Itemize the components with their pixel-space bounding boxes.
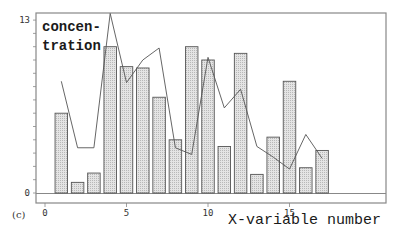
bar bbox=[104, 47, 117, 193]
bar bbox=[283, 81, 296, 193]
bar bbox=[137, 68, 150, 193]
bar bbox=[120, 67, 133, 193]
y-tick-label: 13 bbox=[19, 15, 30, 25]
bar bbox=[88, 173, 101, 193]
bar bbox=[218, 146, 231, 193]
bar bbox=[234, 53, 247, 193]
chart-area: 013051015 concen- tration X-variable num… bbox=[0, 0, 400, 237]
bar bbox=[71, 182, 84, 193]
x-axis-label: X-variable number bbox=[228, 212, 381, 229]
bar bbox=[267, 137, 280, 193]
bar bbox=[202, 60, 215, 193]
bar bbox=[300, 168, 313, 193]
y-axis-label-line-2: tration bbox=[42, 37, 122, 56]
panel-label: (c) bbox=[12, 209, 25, 220]
x-tick-label: 0 bbox=[42, 208, 47, 218]
bar bbox=[185, 47, 198, 193]
bar-series bbox=[55, 47, 328, 193]
bar bbox=[55, 113, 68, 193]
x-tick-label: 5 bbox=[124, 208, 129, 218]
x-tick-label: 10 bbox=[203, 208, 214, 218]
bar bbox=[251, 174, 264, 193]
y-axis-label-line-1: concen- bbox=[42, 18, 122, 37]
y-axis-label: concen- tration bbox=[42, 18, 122, 56]
bar bbox=[316, 150, 329, 193]
y-tick-label: 0 bbox=[25, 188, 30, 198]
bar bbox=[153, 97, 166, 193]
